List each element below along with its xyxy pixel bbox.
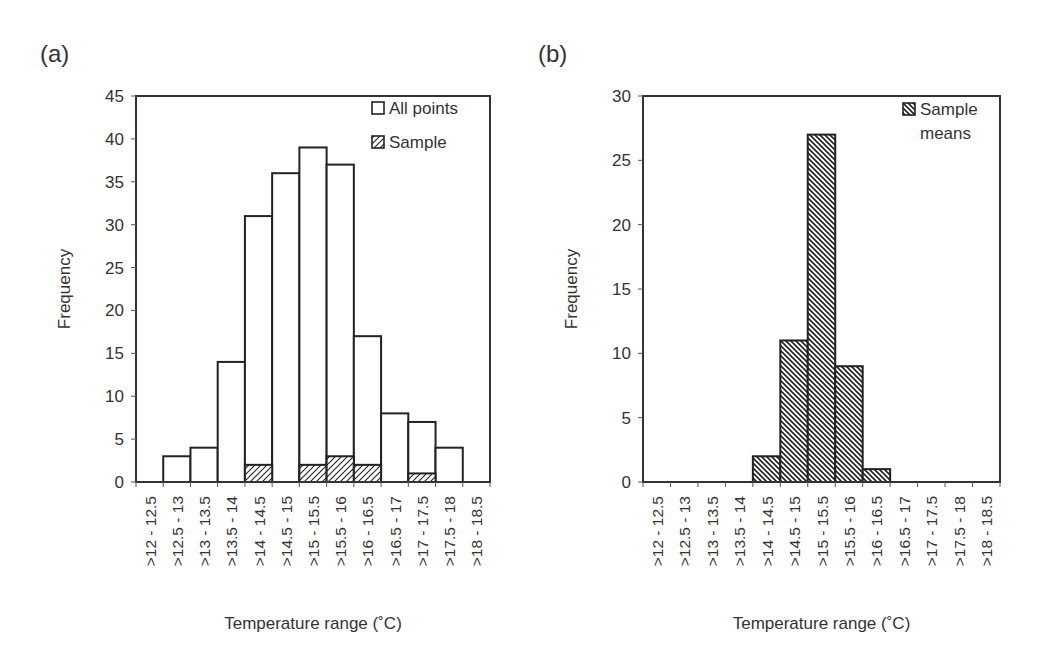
y-tick-label: 25 — [612, 151, 631, 170]
x-tick-label: >12 - 12.5 — [649, 496, 666, 566]
legend-label: Sample — [920, 100, 978, 119]
legend-label: means — [920, 124, 971, 143]
x-tick-label: >15.5 - 16 — [841, 496, 858, 566]
y-tick-label: 10 — [612, 344, 631, 363]
bar-sample-means — [753, 456, 780, 482]
bar-sample-means — [863, 469, 890, 482]
x-tick-label: >16 - 16.5 — [868, 496, 885, 566]
x-axis-title: Temperature range (˚C) — [733, 614, 911, 633]
y-tick-label: 15 — [612, 280, 631, 299]
x-tick-label: >13.5 - 14 — [731, 496, 748, 567]
bar-sample-means — [780, 340, 807, 482]
bar-sample-means — [808, 135, 835, 482]
x-tick-label: >15 - 15.5 — [814, 496, 831, 566]
y-tick-label: 30 — [612, 87, 631, 106]
x-tick-label: >17 - 17.5 — [923, 496, 940, 566]
x-tick-label: >13 - 13.5 — [704, 496, 721, 566]
y-tick-label: 20 — [612, 216, 631, 235]
x-tick-label: >16.5 - 17 — [896, 496, 913, 566]
y-tick-label: 0 — [622, 473, 631, 492]
legend-swatch-icon — [903, 103, 915, 115]
y-tick-label: 5 — [622, 409, 631, 428]
x-tick-label: >17.5 - 18 — [951, 496, 968, 566]
x-tick-label: >12.5 - 13 — [676, 496, 693, 566]
x-tick-label: >18 - 18.5 — [978, 496, 995, 566]
x-tick-label: >14.5 - 15 — [786, 496, 803, 566]
x-tick-label: >14 - 14.5 — [759, 496, 776, 566]
histogram-sample-means: 051015202530>12 - 12.5>12.5 - 13>13 - 13… — [0, 0, 1043, 670]
y-axis-title: Frequency — [562, 248, 581, 329]
bar-sample-means — [835, 366, 862, 482]
